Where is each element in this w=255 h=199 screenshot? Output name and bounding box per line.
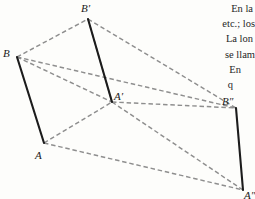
vertex-label-A: A	[35, 150, 42, 161]
body-text-line: La lon	[193, 31, 255, 46]
body-text-line: En la	[193, 1, 255, 16]
vertex-label-Bpp: B″	[222, 96, 233, 107]
dashed-edge-A-App	[44, 143, 243, 190]
vertex-label-Bp: B′	[81, 3, 90, 14]
figure-page: BAB′A′B″A″ En laetc.; losLa lonse llamEn…	[0, 0, 255, 199]
dashed-edge-B-Bp	[17, 19, 88, 57]
dashed-edge-Ap-App	[112, 102, 243, 190]
body-text-line: En	[193, 62, 255, 77]
vertex-label-B: B	[3, 48, 10, 59]
dashed-edge-A-Ap	[44, 102, 112, 143]
body-text-line: q	[193, 77, 255, 92]
body-text-line: se llam	[193, 47, 255, 62]
vertex-label-Ap: A′	[114, 91, 123, 102]
dashed-edge-Ap-Bpp	[112, 102, 236, 108]
solid-segment-B-A	[17, 57, 44, 143]
body-text-line: etc.; los	[193, 16, 255, 31]
vertex-label-App: A″	[244, 190, 255, 199]
dashed-edge-B-Ap	[17, 57, 112, 102]
solid-segment-Bpp-App	[236, 108, 243, 190]
body-text-column: En laetc.; losLa lonse llamEnq	[193, 1, 255, 92]
